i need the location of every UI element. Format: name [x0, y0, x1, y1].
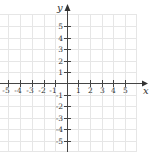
- y-axis-label: y: [56, 2, 63, 13]
- x-tick-label: 5: [123, 86, 128, 95]
- x-tick-label: 4: [111, 86, 116, 95]
- x-tick-label: -4: [14, 86, 22, 95]
- y-axis-arrow-icon: [65, 4, 71, 11]
- x-tick-label: 1: [76, 86, 81, 95]
- x-tick-label: 3: [100, 86, 105, 95]
- y-tick-label: -2: [56, 102, 64, 111]
- x-tick-label: -5: [2, 86, 10, 95]
- x-tick-label: -2: [38, 86, 46, 95]
- coordinate-plane: x y -5 -4 -3 -2 -1 1 2 3 4 5 5 4 3 2 1 -…: [0, 0, 161, 158]
- x-tick-labels: -5 -4 -3 -2 -1 1 2 3 4 5: [2, 86, 128, 95]
- y-axis: [64, 10, 71, 152]
- x-tick-label: -3: [26, 86, 34, 95]
- y-tick-label: 1: [58, 68, 63, 77]
- y-tick-label: -5: [56, 137, 64, 146]
- x-tick-label: 2: [88, 86, 93, 95]
- x-axis-label: x: [143, 85, 149, 96]
- y-tick-label: 3: [58, 45, 63, 54]
- y-tick-label: -4: [56, 125, 64, 134]
- y-tick-label: 4: [58, 34, 63, 43]
- y-tick-label: 5: [58, 22, 63, 31]
- y-tick-label: -1: [56, 91, 63, 100]
- y-tick-label: -3: [56, 114, 64, 123]
- y-tick-label: 2: [58, 57, 63, 66]
